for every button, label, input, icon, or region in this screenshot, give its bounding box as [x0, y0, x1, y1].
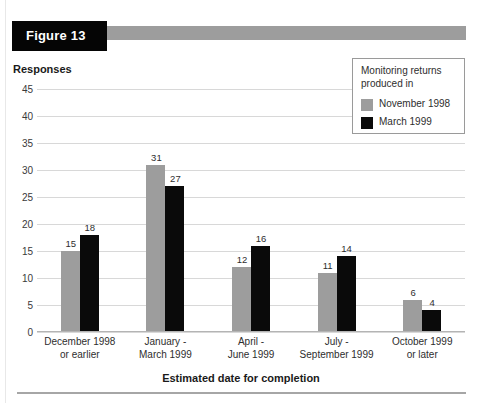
figure-number-label: Figure 13	[26, 28, 86, 43]
bar-value-label: 4	[418, 297, 446, 308]
bar-group: 1518	[61, 89, 99, 332]
legend-label: November 1998	[379, 98, 450, 109]
bar[interactable]	[146, 165, 165, 332]
gridline	[37, 332, 465, 333]
bar[interactable]	[422, 310, 441, 332]
chart-legend: Monitoring returns produced in November …	[352, 58, 465, 134]
legend-swatch	[361, 99, 373, 111]
bar-group: 1216	[232, 89, 270, 332]
bar[interactable]	[251, 246, 270, 332]
y-tick-label: 30	[3, 165, 33, 176]
y-axis-title: Responses	[13, 63, 72, 75]
legend-title: Monitoring returns produced in	[361, 65, 461, 90]
category-label-line: or later	[367, 349, 477, 362]
figure-banner: Figure 13	[12, 21, 466, 51]
y-axis-ticks: 051015202530354045	[0, 89, 33, 332]
category-label: October 1999or later	[367, 336, 477, 361]
y-tick-label: 20	[3, 219, 33, 230]
banner-gray-bar	[107, 26, 466, 40]
y-tick-label: 40	[3, 111, 33, 122]
y-tick-label: 35	[3, 138, 33, 149]
legend-label: March 1999	[379, 116, 432, 127]
bar-group: 3127	[146, 89, 184, 332]
bar[interactable]	[61, 251, 80, 332]
bar[interactable]	[337, 256, 356, 332]
bar-group: 1114	[318, 89, 356, 332]
bar-value-label: 18	[76, 222, 104, 233]
y-tick-label: 5	[3, 300, 33, 311]
bar-value-label: 6	[399, 287, 427, 298]
bar[interactable]	[165, 186, 184, 332]
bottom-rule	[17, 392, 466, 394]
bar-value-label: 14	[333, 243, 361, 254]
x-axis-title: Estimated date for completion	[0, 372, 482, 384]
x-axis-baseline	[37, 331, 465, 332]
bar[interactable]	[232, 267, 251, 332]
y-tick-label: 10	[3, 273, 33, 284]
bar-value-label: 27	[161, 173, 189, 184]
y-tick-label: 15	[3, 246, 33, 257]
y-tick-label: 25	[3, 192, 33, 203]
y-tick-label: 45	[3, 84, 33, 95]
bar-value-label: 16	[247, 233, 275, 244]
bar-value-label: 31	[142, 152, 170, 163]
bar[interactable]	[80, 235, 99, 332]
category-label-line: October 1999	[367, 336, 477, 349]
figure-tag-box: Figure 13	[12, 21, 107, 51]
bar[interactable]	[318, 273, 337, 332]
legend-swatch	[361, 117, 373, 129]
